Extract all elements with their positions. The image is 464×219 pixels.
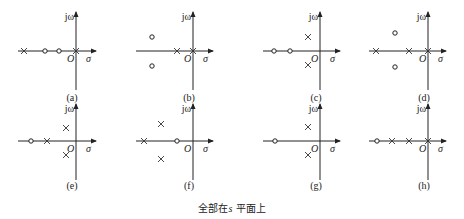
pole-marker-icon — [63, 152, 69, 158]
imag-axis-label: jω — [64, 11, 75, 22]
origin-label: O — [67, 53, 74, 64]
panel-label: (g) — [310, 180, 322, 192]
imag-axis-label: jω — [416, 11, 427, 22]
imag-axis-label: jω — [308, 103, 319, 114]
pole-marker-icon — [158, 156, 164, 162]
pole-marker-icon — [158, 121, 164, 127]
real-axis-label: σ — [330, 143, 336, 154]
panel-label: (e) — [66, 180, 77, 192]
real-axis-label: σ — [203, 143, 209, 154]
panel-a: jωσO(a) — [18, 11, 96, 104]
zero-marker-icon — [375, 139, 379, 143]
zero-marker-icon — [57, 49, 61, 53]
panel-h: jωσO(h) — [369, 103, 446, 192]
figure-caption: 全部在s 平面上 — [198, 202, 265, 214]
zero-marker-icon — [150, 64, 154, 68]
real-axis-label: σ — [86, 143, 92, 154]
zero-marker-icon — [393, 31, 397, 35]
imag-axis-label: jω — [416, 103, 427, 114]
real-axis-label: σ — [203, 53, 209, 64]
real-axis-label: σ — [438, 143, 444, 154]
origin-label: O — [184, 143, 191, 154]
panel-b: jωσO(b) — [136, 11, 213, 104]
zero-marker-icon — [272, 49, 276, 53]
panel-d: jωσO(d) — [369, 11, 446, 104]
origin-label: O — [419, 143, 426, 154]
real-axis-label: σ — [330, 53, 336, 64]
zero-marker-icon — [288, 49, 292, 53]
real-axis-label: σ — [86, 53, 92, 64]
pole-marker-icon — [63, 125, 69, 131]
origin-label: O — [311, 53, 318, 64]
imag-axis-label: jω — [181, 103, 192, 114]
origin-label: O — [184, 53, 191, 64]
panel-label: (h) — [418, 180, 430, 192]
origin-label: O — [311, 143, 318, 154]
panel-c: jωσO(c) — [263, 11, 340, 104]
imag-axis-label: jω — [308, 11, 319, 22]
zero-marker-icon — [43, 49, 47, 53]
pole-marker-icon — [305, 152, 311, 158]
origin-label: O — [419, 53, 426, 64]
panel-e: jωσO(e) — [18, 103, 96, 192]
pole-zero-figure: jωσO(a)jωσO(b)jωσO(c)jωσO(d)jωσO(e)jωσO(… — [0, 0, 464, 219]
real-axis-label: σ — [438, 53, 444, 64]
zero-marker-icon — [393, 65, 397, 69]
zero-marker-icon — [273, 139, 277, 143]
imag-axis-label: jω — [64, 103, 75, 114]
panel-f: jωσO(f) — [136, 103, 213, 192]
zero-marker-icon — [150, 35, 154, 39]
pole-marker-icon — [305, 124, 311, 130]
panel-g: jωσO(g) — [263, 103, 340, 192]
pole-marker-icon — [305, 34, 311, 40]
zero-marker-icon — [29, 139, 33, 143]
zero-marker-icon — [175, 139, 179, 143]
pole-marker-icon — [305, 62, 311, 68]
panel-label: (f) — [184, 180, 194, 192]
imag-axis-label: jω — [181, 11, 192, 22]
